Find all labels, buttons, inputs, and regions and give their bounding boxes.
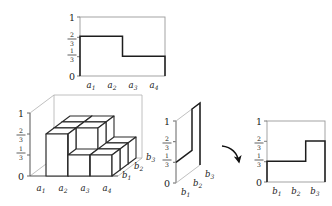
skew-plane-outline xyxy=(176,103,200,183)
svg-text:3: 3 xyxy=(257,161,261,168)
blocks-a1-label: a1 xyxy=(37,183,46,194)
blocks-a4-label: a4 xyxy=(103,183,112,194)
a-xlabel-3: a3 xyxy=(129,80,138,90)
blocks-a3-label: a3 xyxy=(81,183,90,194)
blocks-y-axis-labels: 1 2 3 1 3 0 xyxy=(17,108,26,182)
a-xlabel-1: a1 xyxy=(87,80,96,90)
svg-text:2: 2 xyxy=(165,135,169,142)
skew-b1-label: b1 xyxy=(181,187,190,198)
b-ytick-1: 1 xyxy=(256,116,262,127)
a-ytick-two-thirds: 2 3 xyxy=(68,31,77,47)
b-ytick-0: 0 xyxy=(256,177,262,188)
svg-text:1: 1 xyxy=(257,152,261,159)
b-chart-frame xyxy=(267,121,325,182)
b-ytick-two-thirds: 2 3 xyxy=(255,135,264,151)
a-chart-x-axis-labels: a1 a2 a3 a4 xyxy=(87,80,159,90)
svg-text:3: 3 xyxy=(165,161,169,168)
svg-text:1: 1 xyxy=(19,145,23,152)
figure-root: 1 2 3 1 3 0 xyxy=(0,0,332,206)
arrow-curve xyxy=(222,146,239,162)
blocks-b1-label: b1 xyxy=(122,170,131,181)
b-ytick-one-third: 1 3 xyxy=(255,152,264,168)
skew-ytick-one-third: 1 3 xyxy=(163,152,172,168)
a-chart-y-axis-labels: 1 2 3 1 3 0 xyxy=(68,12,77,82)
svg-text:3: 3 xyxy=(70,56,74,63)
a-step-profile xyxy=(80,36,165,76)
b-step-profile xyxy=(267,141,325,182)
svg-text:3: 3 xyxy=(165,144,169,151)
b-profile-chart: 1 2 3 1 3 0 b1 b2 xyxy=(245,100,331,196)
b-xlabel-2: b2 xyxy=(291,186,300,196)
blocks-a2-label: a2 xyxy=(59,183,68,194)
blocks-ytick-0: 0 xyxy=(18,171,24,182)
skew-ytick-two-thirds: 2 3 xyxy=(163,135,172,151)
svg-text:3: 3 xyxy=(70,40,74,47)
blocks-ytick-two-thirds: 2 3 xyxy=(17,127,26,143)
blocks-x-axis-labels: a1 a2 a3 a4 xyxy=(37,183,112,194)
skew-y-axis-labels: 1 2 3 1 3 0 xyxy=(163,116,172,189)
block-stack-3d: 1 2 3 1 3 0 xyxy=(10,92,175,204)
svg-text:3: 3 xyxy=(19,136,23,143)
skew-b3-label: b3 xyxy=(205,169,214,180)
svg-text:2: 2 xyxy=(257,135,261,142)
b-chart-y-axis-labels: 1 2 3 1 3 0 xyxy=(255,116,264,188)
svg-text:2: 2 xyxy=(19,127,23,134)
svg-text:1: 1 xyxy=(70,47,74,54)
b-xlabel-1: b1 xyxy=(272,186,281,196)
skew-b2-label: b2 xyxy=(193,178,202,189)
a-xlabel-2: a2 xyxy=(108,80,117,90)
skew-ytick-0: 0 xyxy=(164,178,170,189)
svg-text:3: 3 xyxy=(257,144,261,151)
skew-depth-labels: b1 b2 b3 xyxy=(181,169,214,198)
a-ytick-1: 1 xyxy=(69,12,75,23)
a-ytick-one-third: 1 3 xyxy=(68,47,77,63)
blocks-b2-label: b2 xyxy=(134,161,143,172)
a-ytick-0: 0 xyxy=(69,71,75,82)
svg-text:1: 1 xyxy=(165,152,169,159)
skew-ytick-1: 1 xyxy=(164,116,170,127)
a-profile-chart: 1 2 3 1 3 0 xyxy=(55,4,175,90)
blocks-ytick-1: 1 xyxy=(18,108,24,119)
skew-axis xyxy=(173,121,176,183)
svg-text:2: 2 xyxy=(70,31,74,38)
b-xlabel-3: b3 xyxy=(310,186,319,196)
blocks-ytick-one-third: 1 3 xyxy=(17,145,26,161)
svg-text:3: 3 xyxy=(19,154,23,161)
a-xlabel-4: a4 xyxy=(150,80,159,90)
b-chart-x-axis-labels: b1 b2 b3 xyxy=(272,186,319,196)
